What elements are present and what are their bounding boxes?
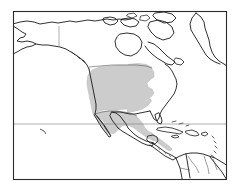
map-canvas bbox=[0, 0, 240, 192]
range-map-figure bbox=[0, 0, 240, 192]
